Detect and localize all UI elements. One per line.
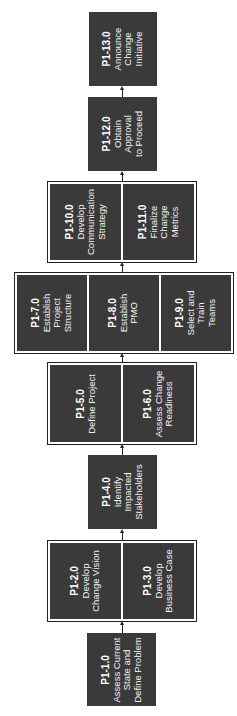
node-label-line: Define Problem — [132, 637, 143, 702]
arrow-head-icon — [120, 86, 124, 90]
node-id: P1-6.0 — [143, 370, 154, 437]
arrow-head-icon — [120, 529, 124, 533]
arrow-head-icon — [120, 621, 124, 625]
node-id: P1-1.0 — [101, 637, 112, 702]
node-label-line: Identify — [112, 464, 123, 519]
node-label-line: Business Case — [164, 549, 175, 612]
node-select-and-train-teams: P1-9.0 Select and Train Teams — [161, 275, 231, 351]
node-label-line: PMO — [129, 294, 140, 333]
node-label-line: Metrics — [169, 205, 180, 239]
node-assess-change-readiness: P1-6.0 Assess Change Readiness — [123, 365, 194, 442]
node-label-line: Approval — [123, 111, 134, 157]
node-id: P1-8.0 — [108, 294, 119, 333]
node-establish-pmo: P1-8.0 Establish PMO — [89, 275, 159, 351]
node-label-line: Impacted — [123, 464, 134, 519]
node-assess-current-state: P1-1.0 Assess Current State and Define P… — [87, 633, 156, 706]
node-id: P1-9.0 — [175, 291, 186, 336]
node-label-line: Readiness — [164, 370, 175, 437]
node-label-line: Stakeholders — [133, 464, 144, 519]
node-id: P1-2.0 — [70, 550, 81, 612]
node-label-line: Communication — [86, 189, 97, 255]
connector-1-to-2-3 — [122, 624, 123, 633]
node-id: P1-13.0 — [102, 28, 113, 71]
node-label-line: Change Vision — [91, 550, 102, 612]
node-id: P1-3.0 — [143, 549, 154, 612]
node-id: P1-7.0 — [31, 294, 42, 333]
connector-2-3-to-4 — [122, 532, 123, 540]
node-develop-change-vision: P1-2.0 Develop Change Vision — [50, 543, 121, 619]
node-label-line: to Proceed — [133, 111, 144, 157]
node-label-line: Change — [123, 28, 134, 71]
arrow-head-icon — [120, 444, 124, 448]
node-id: P1-5.0 — [75, 374, 86, 434]
node-label-line: Train — [196, 291, 207, 336]
node-develop-business-case: P1-3.0 Develop Business Case — [123, 543, 194, 619]
node-finalize-change-metrics: P1-11.0 Finalize Change Metrics — [123, 184, 194, 260]
node-label-line: Develop — [153, 549, 164, 612]
node-develop-communication-strategy: P1-10.0 Develop Communication Strategy — [50, 184, 121, 260]
node-label-line: Strategy — [96, 189, 107, 255]
node-label-line: State and — [122, 637, 133, 702]
node-define-project: P1-5.0 Define Project — [50, 365, 121, 442]
node-label-line: Define Project — [86, 374, 97, 434]
node-label-line: Structure — [63, 294, 74, 333]
node-identify-impacted-stakeholders: P1-4.0 Identify Impacted Stakeholders — [88, 455, 157, 529]
connector-7-9-to-10-11 — [122, 265, 123, 272]
node-announce-change-initiative: P1-13.0 Announce Change Initiative — [89, 12, 157, 86]
node-label-line: Teams — [207, 291, 218, 336]
node-label-line: Finalize — [148, 205, 159, 239]
node-label-line: Change — [159, 205, 170, 239]
node-id: P1-12.0 — [102, 111, 113, 157]
node-label-line: Develop — [80, 550, 91, 612]
node-id: P1-11.0 — [138, 205, 149, 239]
arrow-head-icon — [120, 353, 124, 357]
node-label-line: Assess Change — [153, 370, 164, 437]
node-obtain-approval: P1-12.0 Obtain Approval to Proceed — [88, 97, 157, 171]
connector-4-to-5-6 — [122, 447, 123, 455]
node-label-line: Develop — [75, 189, 86, 255]
arrow-head-icon — [120, 171, 124, 175]
node-label-line: Obtain — [112, 111, 123, 157]
node-label-line: Assess Current — [111, 637, 122, 702]
node-id: P1-4.0 — [102, 464, 113, 519]
arrow-head-icon — [120, 262, 124, 266]
node-label-line: Initiative — [134, 28, 145, 71]
node-establish-project-structure: P1-7.0 Establish Project Structure — [17, 275, 87, 351]
node-label-line: Project — [52, 294, 63, 333]
node-id: P1-10.0 — [65, 189, 76, 255]
